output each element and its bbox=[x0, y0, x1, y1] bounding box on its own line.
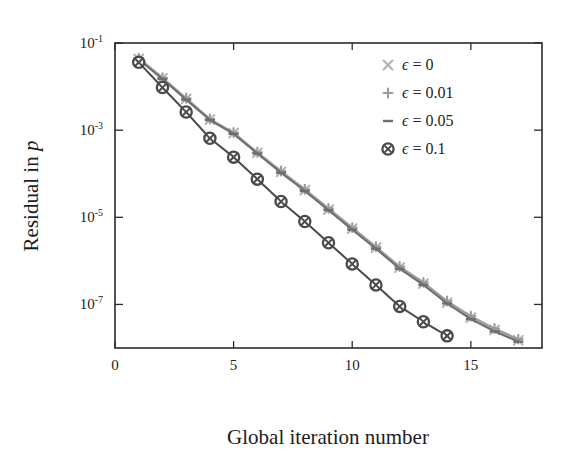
y-axis-tick-labels: 10-110-310-510-7 bbox=[80, 33, 103, 312]
data-point-marker-circle-x bbox=[133, 57, 144, 68]
legend-item-eps-0-05[interactable]: ϵ = 0.05 bbox=[383, 112, 453, 129]
legend-label: ϵ = 0 bbox=[402, 56, 433, 73]
series-plus bbox=[134, 54, 522, 344]
data-point-marker-circle-x bbox=[204, 133, 215, 144]
x-axis-tick-labels: 051015 bbox=[111, 357, 478, 373]
series-x bbox=[134, 55, 522, 345]
series-line bbox=[139, 58, 519, 339]
data-point-marker-circle-x bbox=[418, 316, 429, 327]
y-tick-label: 10-7 bbox=[80, 294, 103, 312]
chart-legend: ϵ = 0ϵ = 0.01ϵ = 0.05ϵ = 0.1 bbox=[382, 56, 453, 157]
x-axis-title: Global iteration number bbox=[227, 425, 429, 449]
chart-figure: 051015 10-110-310-510-7 ϵ = 0ϵ = 0.01ϵ =… bbox=[0, 0, 564, 471]
legend-item-eps-0-01[interactable]: ϵ = 0.01 bbox=[384, 84, 454, 101]
data-point-marker-x bbox=[384, 61, 393, 70]
data-point-marker-circle-x bbox=[299, 216, 310, 227]
x-tick-label: 10 bbox=[345, 357, 360, 373]
data-point-marker-circle-x bbox=[181, 106, 192, 117]
y-axis-ticks bbox=[115, 43, 542, 304]
y-tick-label: 10-5 bbox=[80, 207, 103, 225]
legend-label: ϵ = 0.01 bbox=[402, 84, 453, 101]
data-point-marker-circle-x bbox=[382, 143, 393, 154]
series-line bbox=[139, 62, 447, 336]
data-point-marker-circle-x bbox=[275, 196, 286, 207]
data-point-marker-circle-x bbox=[370, 279, 381, 290]
y-tick-label: 10-3 bbox=[80, 120, 103, 138]
series-dash bbox=[134, 59, 524, 341]
data-point-marker-circle-x bbox=[252, 174, 263, 185]
y-tick-label: 10-1 bbox=[80, 33, 103, 51]
x-tick-label: 5 bbox=[230, 357, 238, 373]
data-series-group bbox=[133, 54, 523, 345]
data-point-marker-circle-x bbox=[323, 237, 334, 248]
legend-label: ϵ = 0.1 bbox=[402, 140, 445, 157]
plot-frame bbox=[115, 43, 542, 348]
data-point-marker-circle-x bbox=[157, 82, 168, 93]
legend-label: ϵ = 0.05 bbox=[402, 112, 453, 129]
x-tick-label: 15 bbox=[463, 357, 478, 373]
residual-convergence-plot: 051015 10-110-310-510-7 ϵ = 0ϵ = 0.01ϵ =… bbox=[0, 0, 564, 471]
x-tick-label: 0 bbox=[111, 357, 119, 373]
series-line bbox=[139, 59, 519, 341]
series-line bbox=[139, 59, 519, 340]
data-point-marker-circle-x bbox=[394, 301, 405, 312]
y-axis-title: Residual in p bbox=[19, 141, 43, 252]
data-point-marker-circle-x bbox=[347, 258, 358, 269]
legend-item-eps-0-1[interactable]: ϵ = 0.1 bbox=[382, 140, 445, 157]
legend-item-eps-0[interactable]: ϵ = 0 bbox=[384, 56, 434, 73]
data-point-marker-circle-x bbox=[442, 330, 453, 341]
data-point-marker-circle-x bbox=[228, 152, 239, 163]
data-point-marker-plus bbox=[384, 89, 393, 98]
